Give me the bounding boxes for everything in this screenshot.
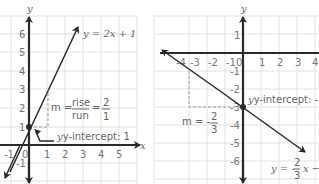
left-y-tick: -1: [16, 158, 26, 169]
intercept-pointer: [36, 132, 54, 141]
left-y-tick: 4: [19, 66, 25, 77]
left-y-tick: 5: [19, 47, 25, 58]
right-y-tick: -1: [230, 66, 240, 77]
right-x-tick: -2: [208, 57, 218, 68]
left-x-tick: 4: [98, 149, 104, 160]
right-y-tick: -6: [230, 156, 240, 167]
right-eq-prefix: y = -: [270, 163, 295, 174]
slope-run: run: [72, 110, 89, 121]
left-y-tick: 6: [19, 29, 25, 40]
slope-den: 1: [103, 111, 109, 122]
left-intercept-label: yy-intercept: 1: [56, 131, 130, 142]
right-slope-den: 3: [211, 124, 217, 135]
left-x-tick: 5: [116, 149, 122, 160]
graphs-canvas: y x -1 0 1 2 3 4 5 6 5 4 3 2 1 -1 yy-int…: [0, 0, 319, 184]
right-intercept-point: [240, 104, 246, 110]
right-x-tick: 2: [277, 57, 283, 68]
right-eq-den: 3: [294, 170, 300, 181]
slope-equals: =: [92, 102, 100, 113]
left-y-axis-label: y: [26, 3, 33, 14]
right-y-axis-label: y: [240, 3, 247, 14]
right-x-tick: -3: [190, 57, 200, 68]
right-x-tick: 4: [312, 57, 318, 68]
left-x-tick: 2: [62, 149, 68, 160]
right-intercept-label: yy-intercept: -3: [247, 94, 319, 105]
right-graph: y -4 -3 -2 -1 0 1 2 3 4 1 -1 -2 -3 -4 -5…: [154, 3, 319, 184]
left-equation: y = 2x + 1: [82, 28, 137, 39]
right-y-tick: -5: [230, 138, 240, 149]
left-graph: y x -1 0 1 2 3 4 5 6 5 4 3 2 1 -1 yy-int…: [0, 3, 146, 184]
left-x-tick: -1: [4, 149, 14, 160]
slope-rise: rise: [72, 97, 90, 108]
right-y-tick: 1: [234, 30, 240, 41]
right-x-tick: 1: [259, 57, 265, 68]
right-eq-suffix: x −: [303, 163, 319, 174]
left-y-tick: 2: [19, 103, 25, 114]
right-x-tick: 3: [295, 57, 301, 68]
left-x-tick: 3: [80, 149, 86, 160]
slope-num: 2: [103, 97, 109, 108]
left-y-tick: 3: [19, 84, 25, 95]
slope-m: m =: [51, 102, 72, 113]
left-x-axis-label: x: [140, 140, 146, 151]
right-y-tick: -4: [230, 120, 240, 131]
left-x-tick: 1: [44, 149, 50, 160]
right-eq-num: 2: [294, 157, 300, 168]
right-slope-num: 2: [211, 111, 217, 122]
right-slope-m: m = -: [182, 116, 210, 127]
left-y-tick: 1: [19, 122, 25, 133]
intercept-arrowhead-icon: [34, 129, 41, 135]
right-y-tick: -2: [230, 84, 240, 95]
left-intercept-point: [26, 124, 32, 130]
